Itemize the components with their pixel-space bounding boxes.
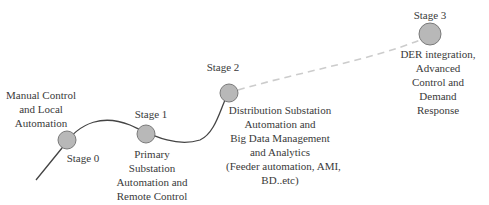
stage-1-node	[137, 125, 155, 143]
stage-1-description: Primary Substation Automation and Remote…	[112, 147, 192, 203]
stage-2-desc-line: Automation and	[226, 117, 334, 131]
stage-2-title: Stage 2	[200, 60, 246, 74]
stage-0-desc-line: Manual Control	[2, 88, 80, 102]
stage-3-title: Stage 3	[407, 8, 453, 22]
stage-2-desc-line: and Analytics	[226, 145, 334, 159]
stage-2-desc-line: Distribution Substation	[226, 103, 334, 117]
stage-3-node	[419, 23, 441, 45]
stage-3-desc-line: Control and	[398, 75, 478, 89]
stage-3-desc-line: Advanced	[398, 61, 478, 75]
stage-1-desc-line: Substation	[112, 161, 192, 175]
stage-3-description: DER integration, Advanced Control and De…	[398, 47, 478, 117]
stage-2-node	[220, 84, 238, 102]
stage-0-desc-line: Automation	[2, 116, 80, 130]
stage-2-description: Distribution Substation Automation and B…	[226, 103, 334, 187]
stage-0-description: Manual Control and Local Automation	[2, 88, 80, 130]
stage-1-title: Stage 1	[128, 107, 174, 121]
stage-0-title: Stage 0	[60, 151, 106, 165]
stage-3-desc-line: Response	[398, 103, 478, 117]
stage-0-node	[58, 131, 76, 149]
stage-3-desc-line: Demand	[398, 89, 478, 103]
stage-1-desc-line: Primary	[112, 147, 192, 161]
stage-0-desc-line: and Local	[2, 102, 80, 116]
stage-1-desc-line: Automation and	[112, 175, 192, 189]
stage-2-desc-line: Big Data Management	[226, 131, 334, 145]
stage-2-desc-line: BD..etc)	[226, 173, 334, 187]
stage-1-desc-line: Remote Control	[112, 189, 192, 203]
stage-3-desc-line: DER integration,	[398, 47, 478, 61]
future-path	[238, 40, 420, 90]
stage-2-desc-line: (Feeder automation, AMI,	[226, 159, 334, 173]
